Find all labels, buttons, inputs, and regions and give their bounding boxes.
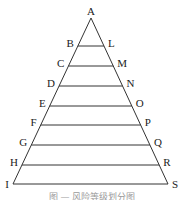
- left-label: C: [57, 57, 64, 69]
- triangle-diagram: ABLCMDNEOFPGQHRIS: [0, 0, 184, 200]
- vertex-labels: ABLCMDNEOFPGQHRIS: [5, 5, 178, 190]
- right-label: O: [136, 97, 144, 109]
- left-label: D: [47, 77, 55, 89]
- right-label: Q: [154, 136, 162, 148]
- right-side-line: [91, 18, 168, 184]
- right-label: M: [117, 57, 127, 69]
- right-label: L: [108, 37, 115, 49]
- left-label: B: [66, 37, 73, 49]
- left-label: G: [19, 136, 27, 148]
- figure-caption: 图 — 风险等级划分图: [0, 192, 184, 200]
- base-right-label: S: [172, 178, 178, 190]
- right-label: R: [163, 156, 171, 168]
- base-left-label: I: [5, 178, 9, 190]
- left-label: F: [31, 116, 37, 128]
- left-label: H: [10, 156, 18, 168]
- left-label: E: [39, 97, 46, 109]
- right-label: P: [145, 116, 151, 128]
- triangle-lines: [13, 18, 168, 184]
- apex-label: A: [87, 5, 95, 17]
- right-label: N: [127, 77, 135, 89]
- left-side-line: [13, 18, 91, 184]
